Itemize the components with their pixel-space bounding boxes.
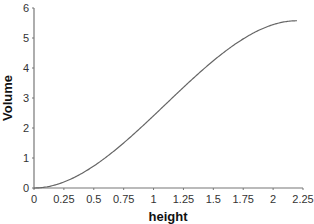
x-tick-label: 1.75	[233, 193, 254, 205]
y-tick-label: 4	[23, 62, 29, 74]
y-tick-label: 5	[23, 32, 29, 44]
x-axis: 00.250.50.7511.251.51.7522.25	[31, 188, 314, 205]
y-tick-label: 6	[23, 2, 29, 14]
x-tick-label: 0.75	[113, 193, 134, 205]
x-axis-title: height	[149, 209, 189, 224]
x-tick-label: 2.25	[292, 193, 313, 205]
y-tick-label: 1	[23, 152, 29, 164]
y-tick-label: 3	[23, 92, 29, 104]
y-axis-title: Volume	[0, 75, 15, 121]
x-tick-label: 0.25	[53, 193, 74, 205]
x-tick-label: 1	[150, 193, 156, 205]
plot-area	[34, 21, 297, 188]
y-axis: 0123456	[23, 2, 34, 194]
data-series-line	[34, 21, 297, 188]
y-tick-label: 0	[23, 182, 29, 194]
line-chart: 0123456 00.250.50.7511.251.51.7522.25 he…	[0, 0, 314, 224]
x-tick-label: 0	[31, 193, 37, 205]
y-tick-label: 2	[23, 122, 29, 134]
x-tick-label: 1.25	[173, 193, 194, 205]
x-tick-label: 2	[270, 193, 276, 205]
x-tick-label: 1.5	[206, 193, 221, 205]
x-tick-label: 0.5	[86, 193, 101, 205]
